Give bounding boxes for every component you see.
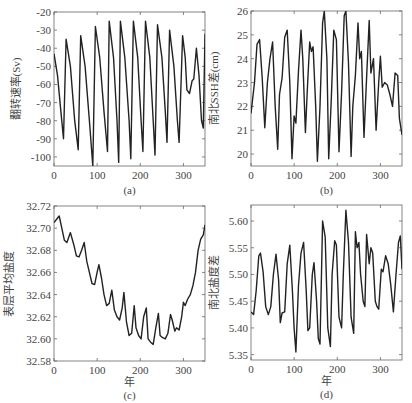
plot-frame [54, 206, 205, 361]
y-axis-label: 表层平均盐度 [2, 251, 15, 317]
x-tick-label: 200 [329, 363, 346, 375]
y-tick-label: -60 [36, 78, 51, 90]
y-axis-label: 南北盐度差 [207, 255, 220, 310]
x-tick-label: 200 [132, 169, 149, 181]
panel-caption: (b) [320, 184, 333, 197]
y-tick-label: 22 [237, 100, 248, 112]
x-tick-label: 200 [329, 169, 346, 181]
y-tick-label: -90 [36, 133, 51, 145]
x-tick-label: 300 [372, 363, 389, 375]
y-tick-label: -70 [36, 97, 51, 109]
y-tick-label: 32.64 [26, 289, 51, 301]
data-series-line [251, 210, 402, 352]
y-tick-label: 32.72 [26, 200, 51, 212]
y-tick-label: 25 [237, 29, 249, 41]
y-tick-label: 21 [237, 124, 248, 136]
y-tick-label: 23 [237, 77, 249, 89]
x-tick-label: 100 [89, 169, 106, 181]
y-tick-label: 32.58 [26, 355, 51, 367]
y-tick-label: 32.62 [26, 311, 51, 323]
y-tick-label: -100 [31, 151, 52, 163]
panel-caption: (a) [123, 184, 136, 197]
panel-caption: (c) [123, 389, 136, 402]
y-tick-label: 5.45 [229, 295, 249, 307]
x-axis-label: 年 [124, 375, 135, 388]
y-axis-label: 南北SSH差(cm) [207, 51, 221, 125]
y-tick-label: 5.50 [229, 268, 249, 280]
y-tick-label: -30 [36, 24, 51, 36]
x-tick-label: 300 [372, 169, 389, 181]
y-tick-label: 32.60 [26, 333, 51, 345]
y-tick-label: -40 [36, 42, 51, 54]
panel-caption: (d) [320, 388, 333, 401]
panel-d-salinity-difference: 01002003005.355.405.455.505.555.60南北盐度差年… [207, 205, 402, 401]
chart-svg: 0100200300-20-30-40-50-60-70-80-90-100翻转… [0, 0, 412, 403]
y-tick-label: 24 [237, 53, 249, 65]
x-tick-label: 0 [248, 363, 254, 375]
y-tick-label: 5.60 [229, 215, 249, 227]
x-tick-label: 100 [89, 364, 106, 376]
y-tick-label: -50 [36, 60, 51, 72]
x-axis-label: 年 [321, 374, 332, 387]
y-axis-label: 翻转速率(Sv) [9, 57, 23, 120]
y-tick-label: 26 [237, 5, 249, 17]
y-tick-label: -20 [36, 6, 51, 18]
plot-frame [251, 11, 402, 166]
panel-a-overturning-rate: 0100200300-20-30-40-50-60-70-80-90-100翻转… [9, 6, 205, 197]
x-tick-label: 0 [51, 169, 57, 181]
data-series-line [54, 21, 205, 166]
x-tick-label: 300 [175, 169, 192, 181]
x-tick-label: 200 [132, 364, 149, 376]
y-tick-label: 32.66 [26, 266, 51, 278]
x-tick-label: 100 [286, 169, 303, 181]
x-tick-label: 0 [51, 364, 57, 376]
data-series-line [54, 216, 205, 344]
y-tick-label: 20 [237, 148, 249, 160]
panel-b-ssh-difference: 010020030020212223242526南北SSH差(cm)(b) [207, 5, 402, 197]
y-tick-label: 32.68 [26, 244, 51, 256]
panel-c-surface-mean-salinity: 010020030032.5832.6032.6232.6432.6632.68… [2, 200, 205, 402]
data-series-line [251, 11, 402, 161]
y-tick-label: 5.40 [229, 322, 249, 334]
chart-figure: 0100200300-20-30-40-50-60-70-80-90-100翻转… [0, 0, 412, 403]
x-tick-label: 300 [175, 364, 192, 376]
y-tick-label: 5.55 [229, 242, 249, 254]
y-tick-label: 5.35 [229, 349, 249, 361]
y-tick-label: -80 [36, 115, 51, 127]
x-tick-label: 0 [248, 169, 254, 181]
x-tick-label: 100 [286, 363, 303, 375]
y-tick-label: 32.70 [26, 222, 51, 234]
